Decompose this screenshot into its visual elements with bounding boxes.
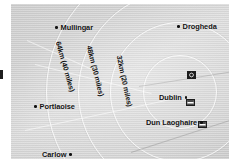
distance-ring-map-figure: 64km (40 miles)48km (30 miles)32km (20 m… — [0, 0, 233, 167]
place-marker-dot — [34, 105, 37, 108]
radius-label-ring-64km: 64km (40 miles) — [55, 41, 76, 93]
airport-icon — [187, 71, 196, 79]
place-name-text: Mullingar — [61, 24, 93, 31]
place-name-text: Dublin — [159, 94, 182, 101]
place-label-carlow: Carlow — [42, 151, 72, 158]
place-name-text: Portlaoise — [40, 103, 75, 110]
place-name-text: Dun Laoghaire — [146, 119, 197, 126]
place-label-dublin: Dublin — [159, 94, 187, 101]
place-label-drogheda: Drogheda — [177, 23, 217, 30]
radius-label-ring-32km: 32km (20 miles) — [115, 55, 133, 107]
place-label-dun-laoghaire: Dun Laoghaire — [146, 119, 203, 126]
place-marker-dot — [69, 153, 72, 156]
place-marker-dot — [177, 25, 180, 28]
ferry-icon — [186, 99, 195, 106]
page-margin-tick — [0, 70, 3, 79]
place-name-text: Carlow — [42, 151, 66, 158]
map-plate: 64km (40 miles)48km (30 miles)32km (20 m… — [11, 4, 229, 159]
place-marker-dot — [185, 96, 188, 99]
coastline-hairline — [139, 71, 229, 87]
place-label-portlaoise: Portlaoise — [34, 103, 75, 110]
place-marker-dot — [200, 121, 203, 124]
radius-label-ring-48km: 48km (30 miles) — [86, 45, 106, 97]
place-marker-dot — [55, 26, 58, 29]
place-label-mullingar: Mullingar — [55, 24, 93, 31]
place-name-text: Drogheda — [183, 23, 217, 30]
